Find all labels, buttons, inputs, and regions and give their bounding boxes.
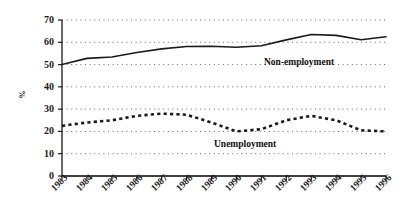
series-line-unemployment bbox=[62, 114, 386, 132]
chart-figure: % 0 10 20 30 40 50 60 70 1983 1984 1985 … bbox=[0, 0, 404, 221]
axis-ticks bbox=[58, 20, 386, 180]
series-annotation-unemployment: Unemployment bbox=[214, 139, 276, 149]
axis-lines bbox=[62, 20, 386, 176]
series-annotation-non-employment: Non-employment bbox=[264, 57, 334, 67]
plot-area bbox=[0, 0, 404, 221]
gridlines bbox=[62, 20, 386, 176]
series-line-non-employment bbox=[62, 34, 386, 64]
